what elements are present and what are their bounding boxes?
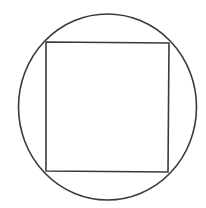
background [0, 0, 206, 208]
inscribed-square-diagram [0, 0, 206, 208]
